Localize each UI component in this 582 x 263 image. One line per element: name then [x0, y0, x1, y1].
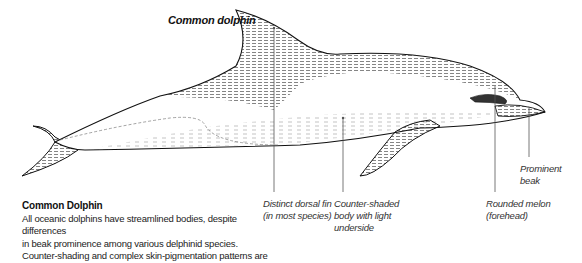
caption-line: in beak prominence among various delphin… [22, 238, 272, 251]
tail-fluke [22, 126, 78, 176]
figure-title: Common dolphin [168, 14, 256, 26]
caption: Common Dolphin All oceanic dolphins have… [22, 200, 272, 263]
caption-line: All oceanic dolphins have streamlined bo… [22, 213, 272, 238]
label-dorsal-fin: Distinct dorsal fin (in most species) [263, 198, 332, 222]
caption-line: Counter-shading and complex skin-pigment… [22, 250, 272, 263]
caption-heading: Common Dolphin [22, 200, 272, 213]
label-rounded-melon: Rounded melon (forehead) [486, 198, 550, 222]
label-counter-shaded-body: Counter-shaded body with light underside [334, 198, 399, 234]
label-prominent-beak: Prominent beak [520, 163, 562, 187]
